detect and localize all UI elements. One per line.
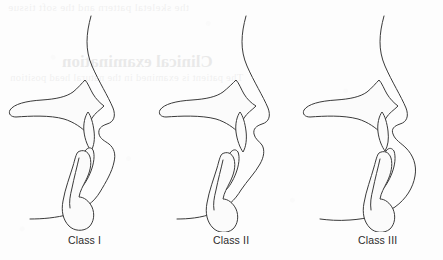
caption-class-iii: Class III [358,234,397,246]
upper-incisor-tooth [84,112,95,151]
upper-incisor-tooth [378,112,389,151]
illustration-class-ii [150,0,298,232]
caption-class-ii: Class II [213,234,249,246]
upper-incisor-tooth [236,112,247,152]
caption-row: Class I Class II Class III [0,234,443,254]
caption-class-i: Class I [68,234,101,246]
figure-page: the skeletal pattern and the soft tissue… [0,0,443,260]
illustration-class-iii [296,0,443,232]
illustration-class-i [0,0,148,232]
